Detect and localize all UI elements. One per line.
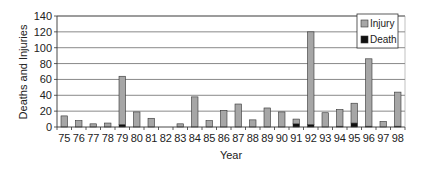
y-tick-label: 140	[34, 10, 52, 22]
bar-injury	[395, 92, 402, 126]
x-tick-label: 92	[305, 132, 317, 144]
bar-injury	[308, 32, 315, 125]
x-tick-label: 80	[131, 132, 143, 144]
chart-canvas: 020406080100120140 757677787980818283848…	[0, 0, 423, 169]
bar-injury	[105, 123, 112, 127]
x-tick-label: 78	[102, 132, 114, 144]
y-tick-label: 80	[40, 58, 52, 70]
bar-injury	[177, 124, 184, 127]
y-tick-label: 40	[40, 89, 52, 101]
x-tick-label: 81	[145, 132, 157, 144]
x-tick-label: 89	[261, 132, 273, 144]
bar-injury	[119, 76, 126, 124]
y-tick-label: 100	[34, 42, 52, 54]
gridlines	[57, 16, 405, 111]
y-tick-label: 20	[40, 105, 52, 117]
x-tick-label: 82	[160, 132, 172, 144]
y-tick-label: 0	[46, 121, 52, 133]
bar-injury	[366, 59, 373, 126]
bar-injury	[250, 120, 257, 127]
bar-injury	[337, 110, 344, 127]
x-tick-label: 97	[377, 132, 389, 144]
bar-injury	[221, 110, 228, 127]
x-tick-label: 79	[116, 132, 128, 144]
x-tick-label: 76	[73, 132, 85, 144]
x-tick-label: 90	[276, 132, 288, 144]
bar-injury	[279, 112, 286, 127]
x-tick-label: 94	[334, 132, 346, 144]
y-axis-ticks: 020406080100120140	[34, 10, 57, 133]
x-tick-label: 75	[58, 132, 70, 144]
x-axis-label: Year	[220, 149, 243, 161]
x-tick-label: 87	[232, 132, 244, 144]
legend: Injury Death	[357, 14, 398, 48]
x-tick-label: 84	[189, 132, 201, 144]
bar-injury	[351, 103, 358, 123]
x-tick-label: 83	[174, 132, 186, 144]
x-tick-label: 95	[348, 132, 360, 144]
bar-injury	[264, 108, 271, 127]
bar-injury	[293, 119, 300, 124]
y-tick-label: 120	[34, 26, 52, 38]
y-tick-label: 60	[40, 73, 52, 85]
x-axis-ticks: 7576777879808182838485868788899091929394…	[57, 127, 405, 144]
bar-injury	[76, 121, 83, 127]
bar-death	[351, 123, 358, 127]
x-tick-label: 96	[363, 132, 375, 144]
x-tick-label: 91	[290, 132, 302, 144]
x-tick-label: 85	[203, 132, 215, 144]
bar-injury	[148, 118, 155, 127]
x-tick-label: 86	[218, 132, 230, 144]
x-tick-label: 88	[247, 132, 259, 144]
x-tick-label: 77	[87, 132, 99, 144]
legend-swatch-injury	[361, 20, 368, 27]
x-tick-label: 93	[319, 132, 331, 144]
bar-injury	[192, 97, 199, 127]
bar-injury	[380, 121, 387, 127]
bar-injury	[90, 124, 97, 127]
legend-label-death: Death	[370, 34, 397, 45]
legend-label-injury: Injury	[370, 18, 394, 29]
deaths-injuries-chart: 020406080100120140 757677787980818283848…	[0, 0, 423, 169]
bar-injury	[134, 112, 141, 127]
bar-injury	[61, 116, 68, 127]
bar-injury	[322, 113, 329, 127]
y-axis-label: Deaths and Injuries	[17, 24, 29, 119]
bar-death	[293, 124, 300, 127]
bar-injury	[235, 104, 242, 127]
x-tick-label: 98	[392, 132, 404, 144]
legend-swatch-death	[361, 36, 368, 43]
bar-injury	[206, 121, 213, 127]
